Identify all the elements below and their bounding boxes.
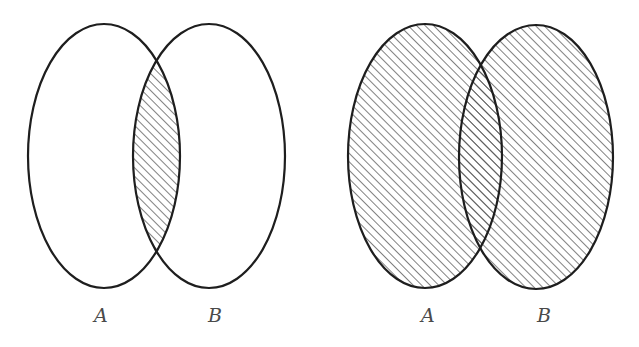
set-b-label: B [536, 304, 551, 326]
set-a-label: A [419, 304, 435, 326]
set-a-label: A [92, 304, 108, 326]
venn-intersection-diagram: A B [28, 24, 285, 326]
set-b-label: B [207, 304, 222, 326]
venn-diagrams-canvas: A B A B [0, 0, 639, 347]
venn-union-diagram: A B [348, 24, 613, 326]
